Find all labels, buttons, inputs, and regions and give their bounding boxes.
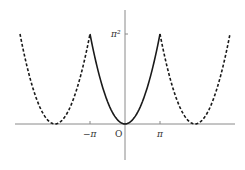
label-neg-pi: −π [83, 129, 98, 139]
label-pi: π [156, 129, 164, 139]
chart-canvas: −π O π π² [0, 0, 245, 170]
dashed-parabola-right [160, 34, 230, 124]
label-origin: O [115, 129, 122, 139]
dashed-parabola-left [20, 34, 90, 124]
label-pi-squared: π² [110, 29, 121, 39]
